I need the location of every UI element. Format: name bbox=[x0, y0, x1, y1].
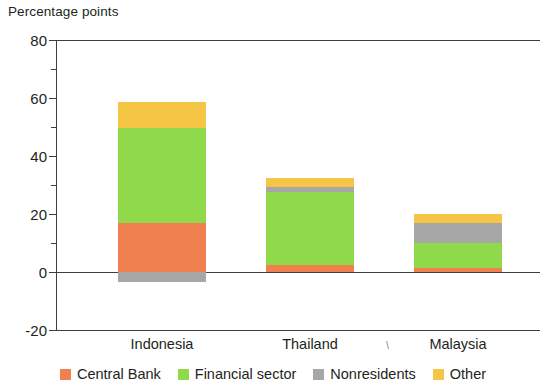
y-axis-tick bbox=[49, 98, 56, 99]
bar-indonesia[interactable] bbox=[118, 40, 206, 330]
bar-segment-financial-sector[interactable] bbox=[266, 192, 354, 265]
bar-segment-other[interactable] bbox=[414, 214, 502, 223]
legend-label: Other bbox=[450, 366, 486, 382]
bar-segment-central-bank[interactable] bbox=[118, 223, 206, 272]
y-axis-tick bbox=[49, 214, 56, 215]
bar-segment-financial-sector[interactable] bbox=[118, 128, 206, 222]
y-axis-label: -20 bbox=[25, 322, 47, 339]
y-axis-minor-tick bbox=[51, 127, 56, 128]
bar-thailand[interactable] bbox=[266, 40, 354, 330]
legend-swatch-icon bbox=[178, 369, 189, 380]
y-axis-tick bbox=[49, 40, 56, 41]
y-axis-minor-tick bbox=[51, 69, 56, 70]
bar-segment-other[interactable] bbox=[118, 102, 206, 128]
legend-label: Nonresidents bbox=[330, 366, 415, 382]
bar-segment-nonresidents[interactable] bbox=[118, 272, 206, 282]
legend-item-financial-sector[interactable]: Financial sector bbox=[178, 366, 297, 382]
y-axis-label: 40 bbox=[30, 148, 47, 165]
legend-swatch-icon bbox=[433, 369, 444, 380]
y-axis-label: 60 bbox=[30, 90, 47, 107]
axis-bottom-frame bbox=[56, 330, 540, 331]
bar-segment-financial-sector[interactable] bbox=[414, 243, 502, 268]
chart-legend: Central BankFinancial sectorNonresidents… bbox=[0, 366, 546, 382]
plot-area: -20020406080 IndonesiaThailandMalaysia / bbox=[56, 40, 540, 330]
y-axis-label: 0 bbox=[39, 264, 47, 281]
chart-title: Percentage points bbox=[8, 4, 119, 19]
legend-item-central-bank[interactable]: Central Bank bbox=[60, 366, 161, 382]
x-axis-label-thailand: Thailand bbox=[240, 336, 380, 352]
y-axis-tick bbox=[49, 330, 56, 331]
y-axis-label: 80 bbox=[30, 32, 47, 49]
axis-left-spine bbox=[56, 40, 57, 330]
x-axis-label-indonesia: Indonesia bbox=[92, 336, 232, 352]
legend-label: Central Bank bbox=[77, 366, 161, 382]
bar-segment-central-bank[interactable] bbox=[414, 268, 502, 272]
legend-swatch-icon bbox=[313, 369, 324, 380]
bar-malaysia[interactable] bbox=[414, 40, 502, 330]
x-axis-label-malaysia: Malaysia bbox=[388, 336, 528, 352]
y-axis-label: 20 bbox=[30, 206, 47, 223]
legend-label: Financial sector bbox=[195, 366, 297, 382]
bar-segment-nonresidents[interactable] bbox=[266, 187, 354, 192]
bar-segment-central-bank[interactable] bbox=[266, 265, 354, 272]
legend-swatch-icon bbox=[60, 369, 71, 380]
y-axis-minor-tick bbox=[51, 185, 56, 186]
bar-segment-nonresidents[interactable] bbox=[414, 223, 502, 243]
y-axis-tick bbox=[49, 272, 56, 273]
chart-container: Percentage points -20020406080 Indonesia… bbox=[0, 0, 546, 388]
bar-segment-other[interactable] bbox=[266, 178, 354, 187]
legend-item-nonresidents[interactable]: Nonresidents bbox=[313, 366, 415, 382]
y-axis-tick bbox=[49, 156, 56, 157]
legend-item-other[interactable]: Other bbox=[433, 366, 486, 382]
y-axis-minor-tick bbox=[51, 243, 56, 244]
